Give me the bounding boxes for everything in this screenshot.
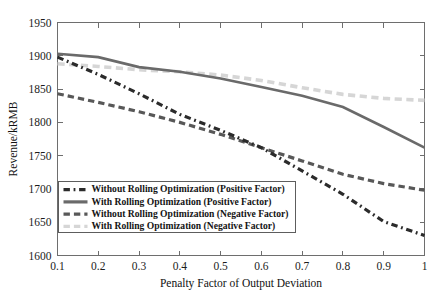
x-tick-label: 0.2 [91, 260, 106, 272]
y-tick-label: 1700 [29, 183, 52, 195]
x-axis-title: Penalty Factor of Output Deviation [160, 277, 322, 290]
y-tick-label: 1800 [29, 116, 52, 128]
figure-container: 16001650170017501800185019001950 0.10.20… [0, 0, 439, 297]
legend-item-label: Without Rolling Optimization (Positive F… [92, 183, 285, 195]
y-axis-title: Revenue/kRMB [7, 101, 19, 176]
chart-legend[interactable]: Without Rolling Optimization (Positive F… [59, 182, 296, 233]
revenue-penalty-line-chart: 16001650170017501800185019001950 0.10.20… [0, 0, 439, 297]
y-tick-label: 1750 [29, 150, 52, 162]
x-tick-label: 0.8 [336, 260, 351, 272]
y-tick-label: 1900 [29, 50, 52, 62]
legend-item-label: Without Rolling Optimization (Negative F… [92, 208, 289, 220]
x-tick-label: 1 [422, 260, 428, 272]
y-tick-label: 1600 [29, 250, 52, 262]
y-tick-label: 1850 [29, 83, 52, 95]
x-tick-label: 0.3 [132, 260, 147, 272]
x-tick-label: 0.4 [173, 260, 188, 272]
x-tick-label: 0.6 [254, 260, 269, 272]
x-tick-label: 0.5 [213, 260, 228, 272]
legend-item-label: With Rolling Optimization (Positive Fact… [92, 196, 272, 208]
y-tick-label: 1950 [29, 17, 52, 29]
x-tick-label: 0.7 [295, 260, 310, 272]
x-tick-label: 0.9 [377, 260, 392, 272]
legend-item-label: With Rolling Optimization (Negative Fact… [92, 220, 276, 232]
y-tick-label: 1650 [29, 216, 52, 228]
x-tick-label: 0.1 [50, 260, 65, 272]
